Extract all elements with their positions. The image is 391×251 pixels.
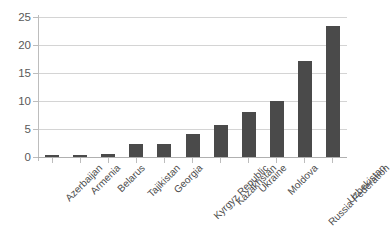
bar-kazakhstan[interactable] xyxy=(214,125,228,157)
bar-slot xyxy=(178,17,206,157)
x-label-slot: Kazakhstan xyxy=(207,163,235,251)
bar-russia-federation[interactable] xyxy=(298,61,312,157)
x-label-slot: Tajikistan xyxy=(122,163,150,251)
y-tick-label-10: 10 xyxy=(0,96,31,108)
bar-slot xyxy=(263,17,291,157)
x-label-slot: Kyrgyz Republic xyxy=(178,163,206,251)
bar-ukraine[interactable] xyxy=(242,112,256,157)
y-tick-label-25: 25 xyxy=(0,12,31,24)
bar-uzbekistan[interactable] xyxy=(326,26,340,157)
x-label-slot: Belarus xyxy=(94,163,122,251)
bar-series xyxy=(38,17,347,157)
y-tick-label-0: 0 xyxy=(0,152,31,164)
bar-tajikistan[interactable] xyxy=(129,144,143,157)
bar-moldova[interactable] xyxy=(270,101,284,157)
y-tick-label-20: 20 xyxy=(0,40,31,52)
bar-slot xyxy=(94,17,122,157)
y-tick-label-5: 5 xyxy=(0,124,31,136)
bar-kyrgyz-republic[interactable] xyxy=(186,134,200,157)
x-label-slot: Moldova xyxy=(263,163,291,251)
bar-slot xyxy=(235,17,263,157)
bar-slot xyxy=(122,17,150,157)
x-label-slot: Uzbekistan xyxy=(319,163,347,251)
bar-slot xyxy=(150,17,178,157)
x-label-slot: Ukraine xyxy=(235,163,263,251)
x-label-slot: Georgia xyxy=(150,163,178,251)
bar-slot xyxy=(66,17,94,157)
bar-slot xyxy=(38,17,66,157)
y-axis-tick-labels: 25 20 15 10 5 0 xyxy=(0,0,31,251)
x-label-slot: Russia Federation xyxy=(291,163,319,251)
x-label-uzbekistan: Uzbekistan xyxy=(345,163,387,205)
bar-georgia[interactable] xyxy=(157,144,171,157)
x-label-slot: Armenia xyxy=(66,163,94,251)
bar-slot xyxy=(207,17,235,157)
x-label-slot: Azerbaijan xyxy=(38,163,66,251)
x-axis-category-labels: Azerbaijan Armenia Belarus Tajikistan Ge… xyxy=(38,163,347,251)
bar-slot xyxy=(291,17,319,157)
bar-slot xyxy=(319,17,347,157)
y-tick-label-15: 15 xyxy=(0,68,31,80)
